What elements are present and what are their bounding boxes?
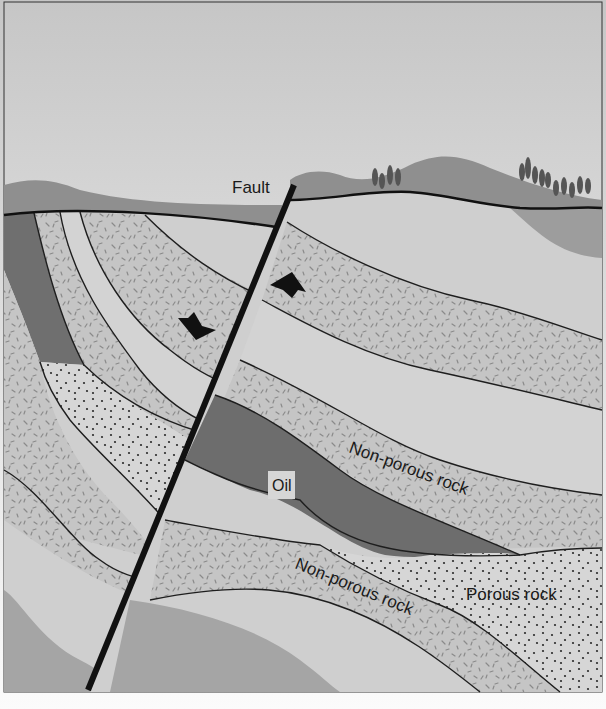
- oil-trap-diagram: Fault Oil Non-porous rock Non-porous roc…: [0, 0, 606, 709]
- oil-label: Oil: [272, 477, 292, 494]
- fault-label: Fault: [232, 178, 270, 197]
- porous-label: Porous rock: [466, 585, 557, 604]
